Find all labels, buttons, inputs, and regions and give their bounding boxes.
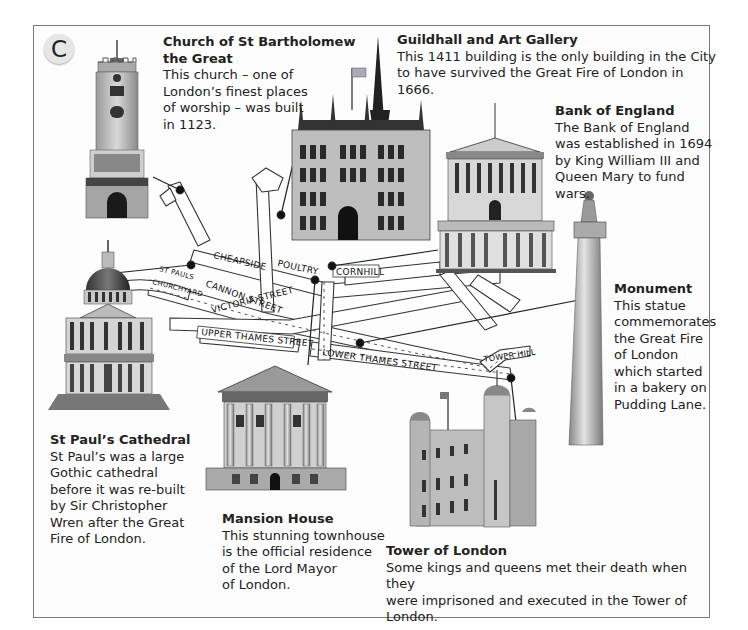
landmark-title: Bank of England — [555, 103, 715, 120]
landmark-body-line: Pudding Lane. — [614, 397, 714, 414]
landmark-body-line: This church – one of — [163, 67, 363, 84]
landmark-body-line: This 1411 building is the only building … — [397, 49, 717, 66]
marker-dot — [328, 262, 336, 270]
mansion-house-illustration — [206, 366, 346, 490]
tower-of-london-illustration — [410, 370, 536, 527]
landmark-title: Guildhall and Art Gallery — [397, 32, 717, 49]
st-bartholomew-illustration — [86, 40, 148, 218]
landmark-tower-of-london: Tower of London Some kings and queens me… — [386, 543, 716, 626]
landmark-bank-of-england: Bank of England The Bank of England was … — [555, 103, 715, 202]
landmark-body-line: which started — [614, 364, 714, 381]
landmark-body-line: in 1123. — [163, 117, 363, 134]
street-label-cornhill: CORNHILL — [336, 267, 384, 277]
landmark-body-line: by Sir Christopher — [50, 498, 210, 515]
landmark-title: Monument — [614, 281, 714, 298]
landmark-body-line: of London — [614, 347, 714, 364]
marker-dot — [311, 276, 319, 284]
landmark-title-cont: the Great — [163, 51, 363, 68]
landmark-body-line: the Great Fire — [614, 331, 714, 348]
marker-dot — [176, 186, 184, 194]
landmark-body-line: The Bank of England — [555, 120, 715, 137]
bank-of-england-illustration — [436, 103, 556, 273]
landmark-body-line: This statue — [614, 298, 714, 315]
landmark-body-line: to have survived the Great Fire of Londo… — [397, 65, 717, 98]
monument-illustration — [569, 191, 606, 445]
landmark-body-line: St Paul’s was a large — [50, 449, 210, 466]
landmark-body-line: before it was re-built — [50, 482, 210, 499]
landmark-monument: Monument This statue commemorates the Gr… — [614, 281, 714, 413]
landmark-body-line: of worship – was built — [163, 100, 363, 117]
landmark-body-line: in a bakery on — [614, 380, 714, 397]
marker-dot — [277, 211, 285, 219]
landmark-guildhall: Guildhall and Art Gallery This 1411 buil… — [397, 32, 717, 98]
landmark-title: Church of St Bartholomew — [163, 34, 363, 51]
marker-dot — [187, 261, 195, 269]
landmark-body-line: London’s finest places — [163, 84, 363, 101]
landmark-body-line: of London. — [222, 577, 392, 594]
st-pauls-illustration — [48, 240, 170, 410]
landmark-title: Mansion House — [222, 511, 392, 528]
landmark-body-line: by King William III and — [555, 153, 715, 170]
landmark-body-line: This stunning townhouse — [222, 528, 392, 545]
landmark-body-line: were imprisoned and executed in the Towe… — [386, 593, 716, 626]
marker-dot — [356, 339, 364, 347]
landmark-body-line: is the official residence — [222, 544, 392, 561]
landmark-st-bartholomew: Church of St Bartholomew the Great This … — [163, 34, 363, 133]
landmark-body-line: Some kings and queens met their death wh… — [386, 560, 716, 593]
landmark-body-line: was established in 1694 — [555, 136, 715, 153]
landmark-body-line: Fire of London. — [50, 531, 210, 548]
marker-dot — [507, 374, 515, 382]
landmark-body-line: Gothic cathedral — [50, 465, 210, 482]
landmark-body-line: Queen Mary to fund wars. — [555, 169, 715, 202]
landmark-st-pauls: St Paul’s Cathedral St Paul’s was a larg… — [50, 432, 210, 548]
landmark-body-line: of the Lord Mayor — [222, 561, 392, 578]
landmark-body-line: commemorates — [614, 314, 714, 331]
landmark-title: St Paul’s Cathedral — [50, 432, 210, 449]
landmark-title: Tower of London — [386, 543, 716, 560]
landmark-body-line: Wren after the Great — [50, 515, 210, 532]
landmark-mansion-house: Mansion House This stunning townhouse is… — [222, 511, 392, 594]
